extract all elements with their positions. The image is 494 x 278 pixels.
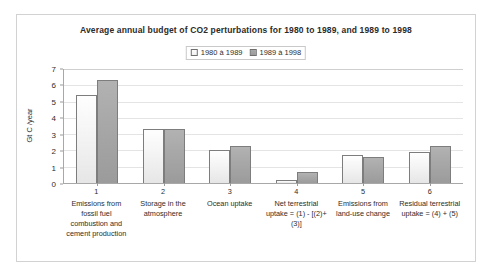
x-axis-label-text: Emissions from fossil fuel combustion an… [64,199,129,239]
y-axis-tick-labels: 01234567 [43,69,59,184]
x-tick-mark [430,183,431,186]
x-axis-label: 6Residual terrestrial uptake = (4) + (5) [396,187,463,239]
x-axis-label-number: 3 [197,187,262,197]
x-axis-label: 1Emissions from fossil fuel combustion a… [63,187,130,239]
x-tick-mark [297,183,298,186]
x-axis-label: 2Storage in the atmosphere [130,187,197,239]
page-title: Average annual budget of CO2 perturbatio… [17,25,475,35]
plot-wrapper: Gt C /year 01234567 [43,69,463,184]
x-axis-label-number: 5 [331,187,396,197]
x-tick-mark [363,183,364,186]
bar-1980-1989 [409,152,430,183]
bar-1989-1998 [164,129,185,183]
x-tick-mark [164,183,165,186]
x-axis-label-number: 2 [131,187,196,197]
bar-1980-1989 [276,180,297,183]
x-axis-label: 4Net terrestrial uptake = (1) - [(2)+(3)… [263,187,330,239]
legend-label-1980-1989: 1980 à 1989 [201,48,243,57]
chart-figure: Average annual budget of CO2 perturbatio… [16,14,476,262]
y-tick-label: 2 [52,147,56,156]
bar-1980-1989 [143,129,164,183]
bar-1980-1989 [342,155,363,183]
y-tick-label: 4 [52,114,56,123]
y-tick-label: 3 [52,130,56,139]
bar-1980-1989 [209,150,230,183]
legend-item-1980-1989: 1980 à 1989 [191,48,243,57]
bar-1989-1998 [230,146,251,183]
x-axis-label-text: Net terrestrial uptake = (1) - [(2)+(3)] [264,199,329,229]
bar-group [197,69,264,183]
y-tick-label: 7 [52,65,56,74]
legend-swatch-light-icon [191,49,198,56]
legend-item-1989-1998: 1989 à 1998 [250,48,302,57]
x-tick-mark [97,183,98,186]
chart-legend: 1980 à 1989 1989 à 1998 [186,46,306,60]
y-tick-label: 5 [52,97,56,106]
x-axis-label-text: Emissions from land-use change [331,199,396,219]
y-axis-title: Gt C /year [25,85,34,165]
bar-group [330,69,397,183]
bar-1989-1998 [97,80,118,183]
legend-label-1989-1998: 1989 à 1998 [260,48,302,57]
legend-swatch-dark-icon [250,49,257,56]
x-tick-mark [230,183,231,186]
y-tick-label: 6 [52,81,56,90]
y-tick-label: 1 [52,163,56,172]
bar-groups [64,69,463,183]
x-axis-label-number: 4 [264,187,329,197]
x-axis-label-text: Storage in the atmosphere [131,199,196,219]
bar-1989-1998 [363,157,384,183]
x-axis-label-number: 1 [64,187,129,197]
x-axis-category-labels: 1Emissions from fossil fuel combustion a… [63,187,463,239]
x-axis-label: 3Ocean uptake [196,187,263,239]
x-axis-label-number: 6 [397,187,462,197]
x-axis-label-text: Ocean uptake [197,199,262,209]
y-tick-label: 0 [52,180,56,189]
bar-1989-1998 [297,172,318,183]
plot-area [63,69,463,184]
bar-group [397,69,464,183]
x-axis-label: 5Emissions from land-use change [330,187,397,239]
bar-1980-1989 [76,95,97,183]
bar-group [131,69,198,183]
x-axis-label-text: Residual terrestrial uptake = (4) + (5) [397,199,462,219]
bar-1989-1998 [430,146,451,183]
bar-group [64,69,131,183]
bar-group [264,69,331,183]
